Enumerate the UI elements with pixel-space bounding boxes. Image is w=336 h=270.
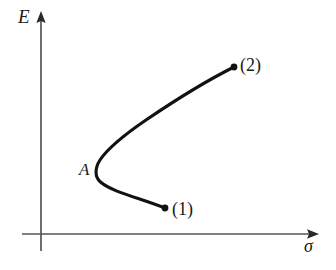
diagram-svg	[0, 0, 336, 270]
point-label-1: (1)	[172, 200, 193, 218]
point-label-2: (2)	[240, 56, 261, 74]
figure-canvas: E σ A (1) (2)	[0, 0, 336, 270]
x-axis-label: σ	[304, 237, 313, 255]
path-curve	[96, 67, 234, 208]
endpoint-marker-1	[162, 205, 169, 212]
endpoint-marker-2	[231, 64, 238, 71]
y-axis-label: E	[18, 7, 30, 26]
vertex-label-a: A	[79, 161, 89, 178]
